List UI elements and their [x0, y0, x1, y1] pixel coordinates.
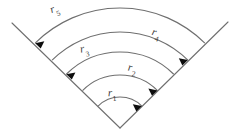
left-ray-line — [12, 23, 120, 128]
arc-r3 — [66, 52, 173, 74]
arc-r1 — [98, 97, 142, 106]
radius-arcs — [35, 8, 205, 106]
arc-r4 — [52, 32, 188, 60]
sector-radii-figure: r5 r4 r3 r2 r1 — [0, 0, 239, 135]
arc-r2 — [83, 75, 158, 91]
sector-diagram-svg — [0, 0, 239, 135]
label-r1-base: r — [108, 86, 113, 98]
label-r2: r2 — [127, 61, 136, 73]
arc-r5 — [35, 8, 205, 43]
label-r1-subscript: 1 — [113, 94, 117, 103]
label-r1: r1 — [108, 87, 116, 98]
right-ray-line — [120, 22, 228, 128]
arc-arrowheads — [35, 41, 188, 111]
